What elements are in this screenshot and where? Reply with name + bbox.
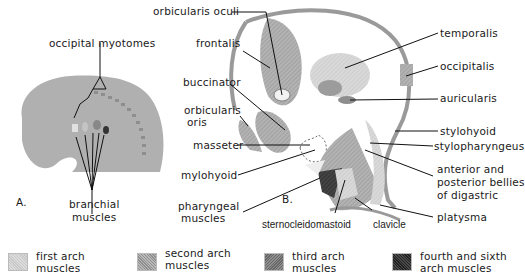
label-digastric-3: of digastric xyxy=(437,189,498,201)
label-digastric-2: posterior bellies xyxy=(437,176,525,188)
label-sternocleidomastoid: sternocleidomastoid xyxy=(262,219,351,231)
legend-label: arch muscles xyxy=(420,262,507,274)
label-clavicle: clavicle xyxy=(373,219,406,231)
label-platysma: platysma xyxy=(437,211,487,223)
label-occipital-myotomes: occipital myotomes xyxy=(49,37,155,49)
label-branchial-muscles-2: muscles xyxy=(72,211,116,223)
legend-label: third arch xyxy=(292,250,345,262)
label-temporalis: temporalis xyxy=(440,27,498,39)
legend-item-third-arch: third archmuscles xyxy=(264,250,345,274)
legend-label: second arch xyxy=(165,247,231,259)
label-digastric-1: anterior and xyxy=(437,163,504,175)
label-orbicularis-oculi: orbicularis oculi xyxy=(153,5,239,17)
legend-item-fourth-sixth-arch: fourth and sixtharch muscles xyxy=(392,250,507,274)
label-stylohyoid: stylohyoid xyxy=(440,125,496,137)
label-orbicularis-oris-1: orbicularis xyxy=(184,104,241,116)
label-buccinator: buccinator xyxy=(183,76,241,88)
legend-label: first arch xyxy=(36,250,85,262)
label-mylohyoid: mylohyoid xyxy=(181,169,237,181)
panel-b-tag: B. xyxy=(282,193,293,205)
embryo-figure xyxy=(22,43,164,214)
legend-swatch-fourth xyxy=(392,253,412,271)
label-stylopharyngeus: stylopharyngeus xyxy=(434,140,524,152)
label-pharyngeal-2: muscles xyxy=(181,212,225,224)
label-pharyngeal-1: pharyngeal xyxy=(178,200,239,212)
label-auricularis: auricularis xyxy=(440,92,497,104)
legend-swatch-second xyxy=(137,253,157,271)
legend-label: muscles xyxy=(36,262,85,274)
legend-label: fourth and sixth xyxy=(420,250,507,262)
panel-a-tag: A. xyxy=(16,196,27,208)
legend-swatch-third xyxy=(264,253,284,271)
head-figure xyxy=(231,10,413,220)
label-orbicularis-oris-2: oris xyxy=(187,116,207,128)
legend-label: muscles xyxy=(292,262,345,274)
legend-item-second-arch: second archmuscles xyxy=(137,250,231,271)
label-occipitalis: occipitalis xyxy=(440,60,495,72)
label-frontalis: frontalis xyxy=(196,37,241,49)
legend-item-first-arch: first archmuscles xyxy=(8,250,85,274)
legend-label: muscles xyxy=(165,259,231,271)
label-masseter: masseter xyxy=(193,139,244,151)
legend-swatch-first xyxy=(8,253,28,271)
label-branchial-muscles-1: branchial xyxy=(69,198,120,210)
